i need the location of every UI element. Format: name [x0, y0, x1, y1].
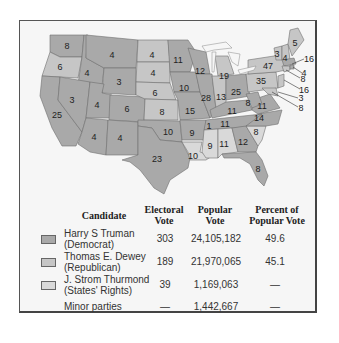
label-pa: 35: [256, 76, 266, 86]
label-tn: 11: [220, 119, 229, 129]
label-vt: 3: [274, 49, 279, 59]
legend-swatch-states-rights: [41, 281, 56, 290]
header-electoral-line2: Vote: [140, 215, 188, 226]
label-sd: 4: [150, 68, 155, 78]
candidate-party: (Democrat): [64, 239, 135, 250]
candidate-name: Harry S Truman: [64, 228, 135, 239]
label-me: 5: [292, 38, 297, 48]
row-dewey-percent: 45.1: [260, 256, 290, 267]
row-truman-name: Harry S Truman (Democrat): [64, 228, 135, 250]
label-la: 10: [188, 151, 198, 161]
label-ga: 12: [238, 137, 248, 147]
label-oh: 25: [231, 87, 241, 97]
state-fl: [222, 152, 268, 186]
row-dewey-electoral: 189: [150, 256, 180, 267]
row-thurmond-percent: —: [260, 279, 290, 290]
label-va: 11: [257, 101, 266, 111]
label-ms: 9: [207, 141, 212, 151]
row-minor-name: Minor parties: [64, 301, 122, 312]
label-id: 4: [84, 68, 89, 78]
row-minor-popular: 1,442,667: [186, 301, 246, 312]
label-ne: 6: [152, 88, 157, 98]
label-md: 8: [298, 103, 303, 113]
label-nv: 3: [69, 95, 74, 105]
label-ks: 8: [159, 107, 164, 117]
label-mt: 4: [109, 50, 114, 60]
candidate-name: J. Strom Thurmond: [64, 274, 149, 285]
header-popular-line1: Popular: [190, 204, 240, 215]
label-mn: 11: [173, 55, 182, 65]
row-thurmond-electoral: 39: [150, 279, 180, 290]
label-ut: 4: [94, 100, 99, 110]
label-ct: 8: [300, 74, 305, 84]
label-nm: 4: [117, 133, 122, 143]
label-tn-split: 1: [206, 121, 211, 131]
label-wi: 12: [195, 66, 205, 76]
row-dewey-name: Thomas E. Dewey (Republican): [64, 251, 146, 273]
label-az: 4: [91, 132, 96, 142]
label-mi: 19: [219, 71, 229, 81]
header-percent: Percent of Popular Vote: [244, 204, 310, 226]
row-truman-percent: 49.6: [260, 233, 290, 244]
legend-swatch-republican: [41, 258, 56, 267]
state-nj: [278, 74, 284, 88]
candidate-party: (Republican): [64, 262, 146, 273]
label-wy: 3: [116, 77, 121, 87]
row-truman-popular: 24,105,182: [186, 233, 246, 244]
label-ar: 9: [189, 128, 194, 138]
label-nc: 14: [254, 113, 264, 123]
label-or: 6: [57, 62, 62, 72]
label-ia: 10: [179, 83, 189, 93]
state-ct: [282, 66, 290, 72]
row-minor-percent: —: [260, 301, 290, 312]
label-fl: 8: [255, 164, 260, 174]
label-mo: 15: [185, 106, 195, 116]
label-wv: 8: [245, 98, 250, 108]
label-il: 28: [201, 93, 211, 103]
label-al: 11: [219, 139, 228, 149]
label-nd: 4: [149, 50, 154, 60]
label-ky: 11: [227, 106, 236, 116]
label-ny: 47: [263, 61, 273, 71]
label-ca: 25: [52, 110, 62, 120]
label-nh: 4: [282, 53, 287, 63]
legend-swatch-democrat: [41, 235, 56, 244]
label-in: 13: [216, 92, 226, 102]
candidate-name: Thomas E. Dewey: [64, 251, 146, 262]
row-truman-electoral: 303: [150, 233, 180, 244]
header-electoral-line1: Electoral: [140, 204, 188, 215]
label-de: 3: [298, 93, 303, 103]
header-popular-line2: Vote: [190, 215, 240, 226]
row-minor-electoral: —: [150, 301, 180, 312]
label-wa: 8: [64, 41, 69, 51]
lake-michigan: [212, 52, 216, 72]
lake-superior: [202, 42, 232, 52]
header-popular: Popular Vote: [190, 204, 240, 226]
label-tx: 23: [152, 154, 162, 164]
label-ma: 16: [304, 54, 314, 64]
header-candidate: Candidate: [64, 210, 144, 221]
label-sc: 8: [253, 127, 258, 137]
label-co: 6: [124, 104, 129, 114]
row-thurmond-name: J. Strom Thurmond (States' Rights): [64, 274, 149, 296]
candidate-party: (States' Rights): [64, 285, 149, 296]
us-electoral-map: 8 6 25 4 3 4 3 4 6 4 4 4 4 6 8 10 23 11 …: [0, 0, 339, 343]
header-electoral: Electoral Vote: [140, 204, 188, 226]
row-thurmond-popular: 1,169,063: [186, 279, 246, 290]
label-ok: 10: [163, 127, 173, 137]
header-percent-line2: Popular Vote: [244, 215, 310, 226]
row-dewey-popular: 21,970,065: [186, 256, 246, 267]
header-percent-line1: Percent of: [244, 204, 310, 215]
